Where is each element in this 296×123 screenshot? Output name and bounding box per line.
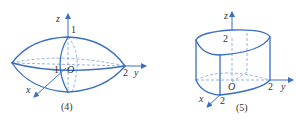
figure-5: z 2 O 2 y x 2 (5): [196, 10, 293, 114]
z-axis-label: z: [55, 13, 60, 24]
figure-4-caption: (4): [61, 101, 73, 113]
top-back-edge: [196, 30, 270, 40]
diagram-canvas: z 1 1 O 2 y x (4) z 2 O 2 y x: [0, 0, 296, 123]
upper-outline: [12, 37, 125, 66]
figure-4: z 1 1 O 2 y x (4): [12, 13, 146, 113]
y-axis-label: y: [133, 67, 139, 78]
x-axis: [34, 68, 66, 97]
x-tick-label: 1: [54, 64, 59, 75]
y-tick-label: 2: [268, 81, 273, 92]
x-axis-label: x: [25, 84, 31, 95]
origin-label: O: [228, 81, 235, 92]
figure-5-caption: (5): [236, 102, 248, 114]
z-tick-label: 2: [223, 33, 228, 44]
x-axis-label: x: [198, 93, 204, 104]
y-tick-label: 2: [123, 67, 128, 78]
x-tick-label: 2: [220, 95, 225, 106]
origin-label: O: [67, 64, 74, 75]
z-axis-label: z: [223, 10, 228, 21]
x-axis: [207, 94, 221, 107]
y-axis-label: y: [280, 81, 286, 92]
top-front-edge: [196, 37, 270, 55]
hidden-base-arc: [196, 73, 269, 80]
z-tick-label: 1: [71, 24, 76, 35]
